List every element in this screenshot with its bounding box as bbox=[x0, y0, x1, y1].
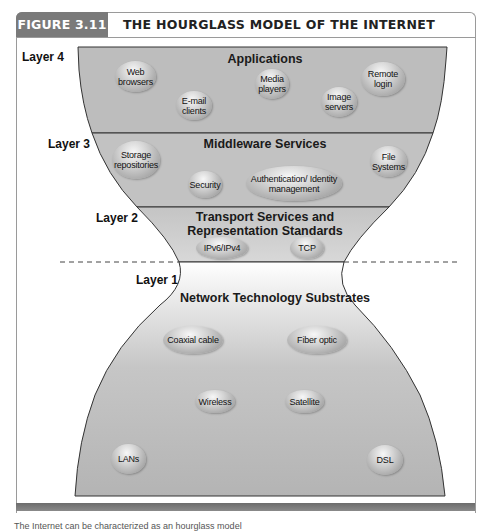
bubble-fiber-optic: Fiber optic bbox=[287, 326, 347, 354]
bubble-wireless: Wireless bbox=[195, 390, 235, 413]
layer-2-label: Layer 2 bbox=[96, 211, 138, 225]
transport-title-line1: Transport Services and bbox=[160, 210, 370, 224]
layer-4-label: Layer 4 bbox=[22, 50, 64, 64]
bubble-tcp: TCP bbox=[290, 237, 324, 259]
bubble-lans: LANs bbox=[111, 444, 146, 474]
bubble-storage-repositories: Storage repositories bbox=[112, 141, 160, 179]
bubble-security: Security bbox=[188, 171, 222, 198]
bubble-email-clients: E-mail clients bbox=[176, 91, 212, 120]
bubble-satellite: Satellite bbox=[285, 390, 324, 413]
figure-caption: The Internet can be characterized as an … bbox=[14, 521, 242, 531]
bubble-remote-login: Remote login bbox=[361, 62, 405, 96]
bubble-web-browsers: Web browsers bbox=[115, 61, 156, 92]
transport-title-line2: Representation Standards bbox=[160, 224, 370, 238]
applications-title: Applications bbox=[160, 52, 370, 66]
bubble-dsl: DSL bbox=[367, 445, 403, 475]
bubble-image-servers: Image servers bbox=[321, 87, 357, 117]
middleware-title: Middleware Services bbox=[160, 137, 370, 151]
bubble-coaxial-cable: Coaxial cable bbox=[163, 326, 223, 354]
figure-bottom-bar bbox=[16, 503, 475, 511]
layer-3-label: Layer 3 bbox=[48, 137, 90, 151]
bubble-ipv6-ipv4: IPv6/IPv4 bbox=[196, 237, 248, 259]
bubble-media-players: Media players bbox=[255, 69, 289, 99]
bubble-file-systems: File Systems bbox=[370, 146, 407, 177]
network-title: Network Technology Substrates bbox=[160, 291, 390, 305]
layer-1-label: Layer 1 bbox=[136, 273, 178, 287]
bubble-authentication-identity: Authentication/ Identity management bbox=[246, 166, 342, 201]
